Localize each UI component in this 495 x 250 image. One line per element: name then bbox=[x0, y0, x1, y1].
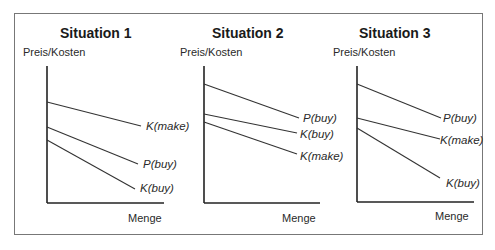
curve-label: K(buy) bbox=[140, 182, 174, 194]
panel-situation-2: Situation 2 Preis/Kosten P(buy) K(buy) K… bbox=[180, 25, 344, 224]
x-axis-label: Menge bbox=[282, 212, 316, 224]
curve-label: K(make) bbox=[440, 134, 484, 146]
curve-label: K(buy) bbox=[300, 128, 334, 140]
curve-label: K(buy) bbox=[446, 177, 480, 189]
curve-label: P(buy) bbox=[303, 112, 337, 124]
curve-p-buy bbox=[47, 127, 138, 164]
y-axis-label: Preis/Kosten bbox=[333, 46, 395, 58]
curve-p-buy bbox=[357, 84, 441, 118]
panel-title: Situation 2 bbox=[212, 25, 284, 41]
panel-situation-3: Situation 3 Preis/Kosten P(buy) K(make) … bbox=[333, 25, 484, 222]
curve-label: K(make) bbox=[146, 120, 190, 132]
panel-title: Situation 3 bbox=[359, 25, 431, 41]
y-axis-label: Preis/Kosten bbox=[180, 46, 242, 58]
x-axis-label: Menge bbox=[128, 212, 162, 224]
y-axis-label: Preis/Kosten bbox=[23, 46, 85, 58]
curve-k-make bbox=[47, 102, 141, 126]
curve-label: P(buy) bbox=[143, 158, 177, 170]
x-axis-label: Menge bbox=[435, 210, 469, 222]
curve-label: P(buy) bbox=[443, 112, 477, 124]
curve-k-buy bbox=[204, 114, 297, 133]
curve-label: K(make) bbox=[300, 150, 344, 162]
curve-k-make bbox=[204, 122, 297, 154]
panel-situation-1: Situation 1 Preis/Kosten K(make) P(buy) … bbox=[23, 25, 190, 224]
make-or-buy-diagram: Situation 1 Preis/Kosten K(make) P(buy) … bbox=[0, 0, 495, 250]
panel-title: Situation 1 bbox=[60, 25, 132, 41]
curve-k-buy bbox=[47, 140, 135, 189]
curve-p-buy bbox=[204, 84, 299, 118]
